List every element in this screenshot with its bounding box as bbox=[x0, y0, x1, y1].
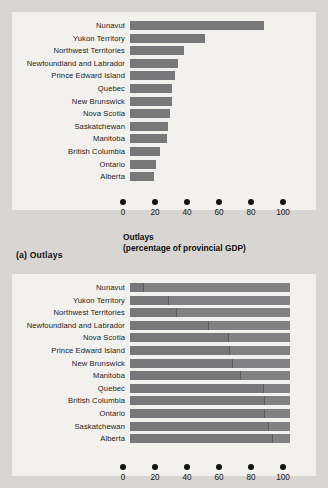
axis-tick-dot bbox=[120, 464, 126, 470]
data-bar bbox=[130, 160, 156, 169]
bar-track bbox=[130, 122, 291, 131]
chart-row: Northwest Territories bbox=[12, 307, 316, 318]
data-bar-stacked bbox=[130, 346, 290, 355]
axis-tick-dot bbox=[216, 199, 222, 205]
category-label: Nunavut bbox=[12, 21, 130, 30]
category-label: Saskatchewan bbox=[12, 122, 130, 131]
stack-segment-2 bbox=[228, 333, 290, 342]
stack-divider bbox=[240, 371, 241, 380]
bar-track bbox=[130, 71, 291, 80]
chart-row: Saskatchewan bbox=[12, 121, 316, 132]
category-label: Ontario bbox=[12, 409, 130, 418]
axis-tick-dot bbox=[152, 464, 158, 470]
data-bar bbox=[130, 71, 175, 80]
stack-segment-2 bbox=[208, 321, 290, 330]
chart-row: Yukon Territory bbox=[12, 33, 316, 44]
chart-row: Northwest Territories bbox=[12, 45, 316, 56]
stack-segment-2 bbox=[264, 409, 290, 418]
category-label: Saskatchewan bbox=[12, 422, 130, 431]
axis-tick-labels: 020406080100 bbox=[123, 207, 298, 219]
data-bar bbox=[130, 97, 172, 106]
stack-segment-2 bbox=[264, 396, 290, 405]
bar-track bbox=[130, 160, 291, 169]
bar-chart-outlays: NunavutYukon TerritoryNorthwest Territor… bbox=[12, 12, 316, 210]
category-label: Manitoba bbox=[12, 134, 130, 143]
chart-row: Quebec bbox=[12, 383, 316, 394]
data-bar bbox=[130, 84, 172, 93]
chart-row: Manitoba bbox=[12, 133, 316, 144]
axis-tick-dot bbox=[280, 464, 286, 470]
category-label: Northwest Territories bbox=[12, 46, 130, 55]
chart-row: Nunavut bbox=[12, 20, 316, 31]
stack-segment-2 bbox=[263, 384, 290, 393]
axis-tick-label: 20 bbox=[150, 472, 159, 483]
chart-row: New Brunswick bbox=[12, 358, 316, 369]
stack-divider bbox=[208, 321, 209, 330]
stack-divider bbox=[229, 346, 230, 355]
data-bar bbox=[130, 147, 160, 156]
axis-tick-dot bbox=[248, 464, 254, 470]
x-axis: 020406080100 bbox=[123, 463, 298, 484]
axis-tick-dot bbox=[120, 199, 126, 205]
stack-segment-2 bbox=[272, 434, 290, 443]
axis-tick-label: 80 bbox=[246, 472, 255, 483]
chart-row: Prince Edward Island bbox=[12, 345, 316, 356]
bar-track bbox=[130, 109, 291, 118]
bar-track bbox=[130, 34, 291, 43]
data-bar bbox=[130, 59, 178, 68]
chart-row: Manitoba bbox=[12, 370, 316, 381]
axis-tick-dots bbox=[123, 198, 298, 207]
category-label: Alberta bbox=[12, 172, 130, 181]
axis-tick-label: 0 bbox=[121, 207, 126, 218]
chart-row: Nunavut bbox=[12, 282, 316, 293]
axis-tick-label: 60 bbox=[214, 472, 223, 483]
data-bar-stacked bbox=[130, 359, 290, 368]
bar-track bbox=[130, 84, 291, 93]
data-bar bbox=[130, 134, 167, 143]
bar-track bbox=[130, 396, 291, 405]
category-label: New Brunswick bbox=[12, 359, 130, 368]
bar-track bbox=[130, 333, 291, 342]
category-label: Newfoundland and Labrador bbox=[12, 59, 130, 68]
chart-row: Nova Scotia bbox=[12, 108, 316, 119]
axis-tick-dot bbox=[216, 464, 222, 470]
bar-track bbox=[130, 21, 291, 30]
stack-divider bbox=[228, 333, 229, 342]
bar-track bbox=[130, 46, 291, 55]
category-label: Yukon Territory bbox=[12, 296, 130, 305]
bar-track bbox=[130, 59, 291, 68]
data-bar-stacked bbox=[130, 384, 290, 393]
bar-track bbox=[130, 283, 291, 292]
stack-segment-2 bbox=[168, 296, 290, 305]
axis-tick-dot bbox=[152, 199, 158, 205]
axis-tick-label: 40 bbox=[182, 472, 191, 483]
bar-track bbox=[130, 308, 291, 317]
chart-row: Prince Edward Island bbox=[12, 70, 316, 81]
stack-divider bbox=[232, 359, 233, 368]
axis-tick-dot bbox=[248, 199, 254, 205]
category-label: Alberta bbox=[12, 434, 130, 443]
axis-tick-label: 0 bbox=[121, 472, 126, 483]
bar-track bbox=[130, 384, 291, 393]
chart-row: Ontario bbox=[12, 408, 316, 419]
bar-track bbox=[130, 97, 291, 106]
chart-row: Newfoundland and Labrador bbox=[12, 58, 316, 69]
stack-segment-2 bbox=[232, 359, 290, 368]
stack-divider bbox=[176, 308, 177, 317]
stack-divider bbox=[264, 396, 265, 405]
stack-segment-2 bbox=[229, 346, 290, 355]
stack-segment-2 bbox=[176, 308, 290, 317]
chart-row: Nova Scotia bbox=[12, 332, 316, 343]
category-label: Nunavut bbox=[12, 283, 130, 292]
chart-row: Ontario bbox=[12, 159, 316, 170]
axis-tick-labels: 020406080100 bbox=[123, 472, 298, 484]
data-bar bbox=[130, 172, 154, 181]
data-bar-stacked bbox=[130, 308, 290, 317]
data-bar-stacked bbox=[130, 321, 290, 330]
data-bar bbox=[130, 34, 205, 43]
chart-row: Newfoundland and Labrador bbox=[12, 320, 316, 331]
data-bar bbox=[130, 122, 168, 131]
data-bar-stacked bbox=[130, 434, 290, 443]
axis-tick-label: 100 bbox=[276, 472, 290, 483]
axis-subtitle-outlays: (percentage of provincial GDP) bbox=[123, 243, 323, 254]
